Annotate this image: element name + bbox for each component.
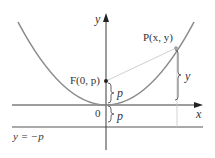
focus-point bbox=[104, 79, 108, 83]
origin-label: 0 bbox=[95, 107, 101, 119]
x-axis-label: x bbox=[195, 107, 202, 121]
brace-point-label: y bbox=[184, 69, 191, 83]
focus-to-point-segment bbox=[106, 48, 176, 81]
brace-origin-directrix bbox=[108, 106, 114, 122]
parabola-point bbox=[174, 46, 178, 50]
parabola-diagram: y x 0 F(0, p) P(x, y) p p y y = −p bbox=[0, 0, 215, 158]
brace-directrix-label: p bbox=[116, 109, 123, 123]
point-label: P(x, y) bbox=[143, 31, 173, 44]
y-axis-arrow-icon bbox=[103, 13, 109, 22]
focus-label: F(0, p) bbox=[70, 74, 100, 87]
y-axis-label: y bbox=[94, 12, 101, 26]
brace-focus-label: p bbox=[116, 86, 123, 100]
directrix-label: y = −p bbox=[12, 130, 44, 142]
brace-point-height bbox=[175, 50, 181, 100]
brace-focus-origin bbox=[108, 83, 114, 103]
